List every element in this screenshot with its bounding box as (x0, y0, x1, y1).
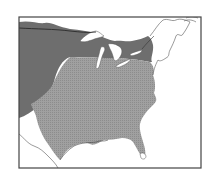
range-map (0, 0, 214, 188)
